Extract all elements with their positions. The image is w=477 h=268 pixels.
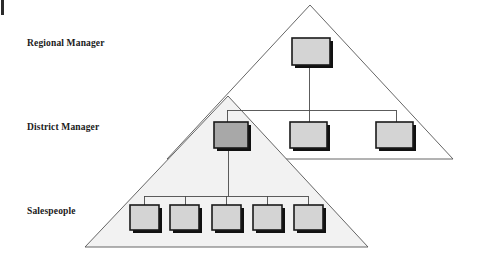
row-label-district-manager: District Manager — [27, 122, 99, 132]
row-label-salespeople: Salespeople — [27, 206, 76, 216]
salesperson-node-5[interactable] — [294, 205, 323, 230]
salesperson-node-2[interactable] — [170, 205, 199, 230]
diagram-canvas: Regional Manager District Manager Salesp… — [0, 0, 477, 268]
salesperson-node-3[interactable] — [212, 205, 241, 230]
salesperson-node-4[interactable] — [253, 205, 282, 230]
district-manager-node-3[interactable] — [376, 122, 413, 148]
row-label-regional-manager: Regional Manager — [27, 38, 105, 48]
district-manager-node-2[interactable] — [290, 122, 327, 148]
salesperson-node-1[interactable] — [130, 205, 159, 230]
district-manager-node-1[interactable] — [214, 122, 248, 148]
regional-manager-node[interactable] — [292, 38, 330, 65]
